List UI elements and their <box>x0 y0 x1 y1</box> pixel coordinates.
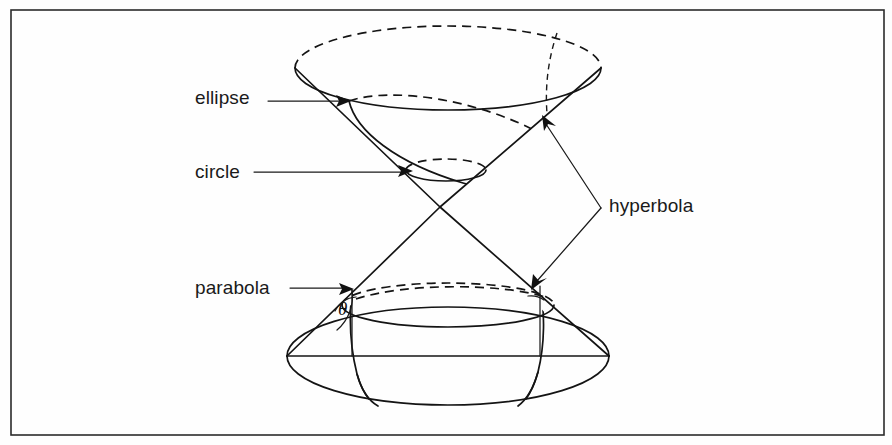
upper-cone-slant-left <box>295 68 440 207</box>
conic-sections-diagram: ellipse circle parabola hyperbola θ <box>0 0 892 445</box>
label-hyperbola: hyperbola <box>609 195 694 216</box>
label-circle: circle <box>195 161 240 182</box>
lower-cone-slant-left <box>287 207 440 356</box>
lower-cone-base-front <box>287 356 609 405</box>
parabola-curve-left <box>350 290 377 406</box>
parabola-cross-sections <box>350 286 543 406</box>
upper-cone-slant-right <box>440 68 601 207</box>
figure-border <box>11 10 884 435</box>
lower-cone-rim-front <box>342 305 554 327</box>
label-parabola: parabola <box>195 277 270 298</box>
circle-section-front <box>406 170 486 181</box>
hyperbola-leader-arm-lower <box>537 208 601 281</box>
hyperbola-arrowhead-lower <box>531 274 547 290</box>
label-theta-angle: θ <box>338 298 347 319</box>
parabola-curve-left-tail <box>357 374 378 406</box>
parabola-curve-right-tail <box>518 372 538 406</box>
conic-sections-figure: ellipse circle parabola hyperbola θ <box>0 0 892 445</box>
upper-cone-rim-back <box>295 26 601 68</box>
hyperbola-plane-trace-upper <box>546 33 557 114</box>
hyperbola-leader-arm-upper <box>546 124 601 208</box>
circle-section-back <box>406 159 486 170</box>
lower-cone-slant-right <box>440 207 609 356</box>
ellipse-section-front <box>349 101 573 195</box>
label-ellipse: ellipse <box>195 87 250 108</box>
